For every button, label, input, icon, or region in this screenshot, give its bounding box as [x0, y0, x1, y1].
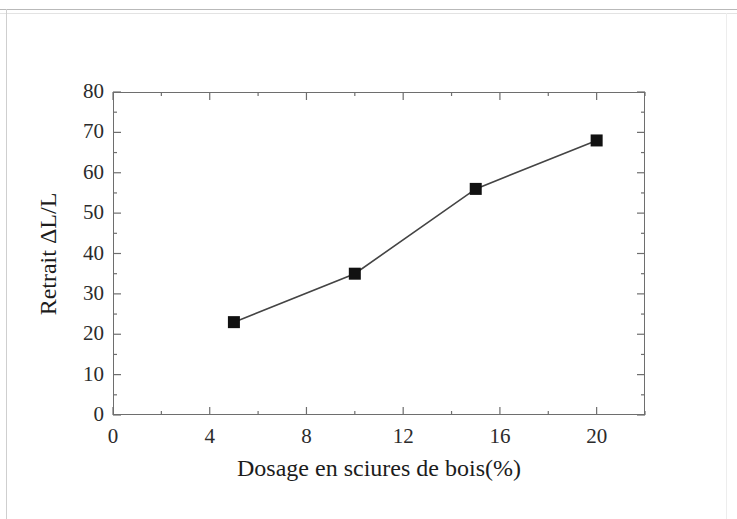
y-axis-tick-label: 50	[83, 202, 104, 223]
y-axis-tick-label: 20	[83, 323, 104, 344]
scanned-page: 01020304050607080 048121620 Retrait ΔL/L…	[0, 0, 737, 519]
data-point-marker[interactable]	[470, 183, 482, 195]
data-point-marker[interactable]	[591, 134, 603, 146]
y-axis-tick-label: 70	[83, 121, 104, 142]
y-axis-title: Retrait ΔL/L	[35, 192, 62, 315]
top-axis-ticks	[113, 92, 645, 100]
y-axis-tick-label: 0	[94, 404, 105, 425]
data-series-line	[234, 140, 597, 322]
y-axis-major-ticks	[113, 92, 121, 415]
x-axis-title: Dosage en sciures de bois(%)	[113, 455, 645, 482]
x-axis-tick-label: 0	[88, 426, 138, 447]
right-axis-ticks	[637, 92, 645, 415]
x-axis-tick-label: 12	[378, 426, 428, 447]
y-axis-tick-label: 10	[83, 364, 104, 385]
y-axis-tick-label: 80	[83, 81, 104, 102]
line-chart-figure: 01020304050607080 048121620 Retrait ΔL/L…	[0, 0, 737, 519]
x-axis-tick-label: 8	[281, 426, 331, 447]
data-point-marker[interactable]	[228, 316, 240, 328]
data-point-marker[interactable]	[349, 268, 361, 280]
x-axis-tick-label: 16	[475, 426, 525, 447]
y-axis-tick-label: 40	[83, 243, 104, 264]
y-axis-tick-label: 60	[83, 162, 104, 183]
x-axis-tick-label: 20	[572, 426, 622, 447]
y-axis-tick-label: 30	[83, 283, 104, 304]
y-axis-title-container: Retrait ΔL/L	[30, 92, 66, 415]
x-axis-tick-label: 4	[185, 426, 235, 447]
